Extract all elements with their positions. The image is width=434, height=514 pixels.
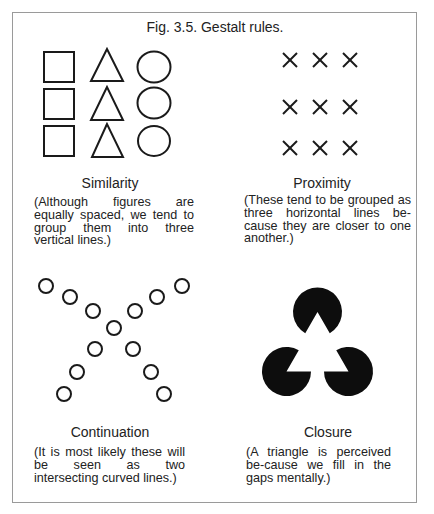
similarity-shapes bbox=[44, 49, 171, 157]
circle-icon bbox=[57, 387, 71, 401]
proximity-x-grid bbox=[283, 53, 357, 155]
circle-icon bbox=[138, 126, 170, 156]
x-icon bbox=[343, 53, 357, 67]
circle-icon bbox=[70, 365, 84, 379]
circle-icon bbox=[150, 290, 164, 304]
proximity-title: Proximity bbox=[252, 175, 392, 191]
pacman-shape-icon bbox=[293, 288, 342, 334]
x-icon bbox=[343, 141, 357, 155]
proximity-description: (These tend to be grouped as three horiz… bbox=[244, 194, 411, 245]
circle-icon bbox=[128, 304, 142, 318]
x-icon bbox=[313, 53, 327, 67]
continuation-title: Continuation bbox=[40, 424, 180, 440]
x-icon bbox=[283, 53, 297, 67]
x-icon bbox=[283, 100, 297, 114]
circle-icon bbox=[63, 290, 77, 304]
closure-pacmen bbox=[262, 288, 373, 396]
x-icon bbox=[283, 141, 297, 155]
circle-icon bbox=[175, 279, 189, 293]
square-icon bbox=[44, 126, 74, 156]
continuation-circles bbox=[39, 279, 189, 401]
similarity-description: (Although figures are equally spaced, we… bbox=[34, 196, 194, 247]
square-icon bbox=[44, 89, 74, 119]
triangle-icon bbox=[92, 124, 123, 157]
similarity-title: Similarity bbox=[40, 175, 180, 191]
circle-icon bbox=[126, 342, 140, 356]
square-icon bbox=[44, 52, 74, 82]
closure-title: Closure bbox=[258, 424, 398, 440]
circle-icon bbox=[88, 342, 102, 356]
triangle-icon bbox=[91, 87, 123, 120]
x-icon bbox=[343, 100, 357, 114]
pacman-shape-icon bbox=[324, 347, 373, 396]
circle-icon bbox=[157, 387, 171, 401]
triangle-icon bbox=[91, 49, 123, 81]
pacman-shape-icon bbox=[262, 347, 311, 396]
circle-icon bbox=[144, 365, 158, 379]
circle-icon bbox=[138, 52, 171, 83]
circle-icon bbox=[86, 304, 100, 318]
continuation-description: (It is most likely these will be seen as… bbox=[34, 446, 185, 484]
closure-description: (A triangle is perceived be-cause we fil… bbox=[246, 446, 391, 484]
x-icon bbox=[313, 100, 327, 114]
circle-icon bbox=[138, 88, 171, 119]
circle-icon bbox=[107, 321, 121, 335]
circle-icon bbox=[39, 279, 53, 293]
x-icon bbox=[313, 141, 327, 155]
